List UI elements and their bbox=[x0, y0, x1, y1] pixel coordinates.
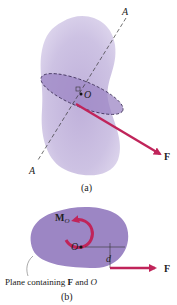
moment-diagram: A A O F (a) MO O d F Plane containing F … bbox=[0, 0, 177, 305]
point-label-o-b: O bbox=[71, 241, 78, 252]
leader-line bbox=[27, 256, 33, 276]
figure-a: A A O F (a) bbox=[28, 6, 170, 194]
axis-label-top: A bbox=[121, 6, 129, 17]
point-o-b bbox=[79, 245, 82, 248]
plane-caption: Plane containing F and O bbox=[5, 277, 98, 287]
caption-b: (b) bbox=[61, 291, 73, 303]
point-label-o: O bbox=[84, 89, 91, 100]
caption-a: (a) bbox=[81, 182, 92, 194]
force-label-a: F bbox=[164, 151, 170, 162]
axis-label-bottom: A bbox=[28, 165, 36, 176]
plane-shape bbox=[31, 207, 129, 268]
figure-b: MO O d F Plane containing F and O (b) bbox=[5, 207, 170, 303]
force-label-b: F bbox=[164, 263, 170, 274]
point-o bbox=[80, 93, 83, 96]
